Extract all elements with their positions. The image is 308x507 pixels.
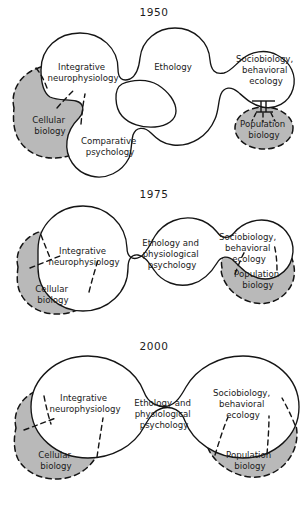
year-label-2000: 2000	[0, 340, 308, 352]
diagram-2000: Integrative neurophysiology Ethology and…	[0, 332, 308, 507]
label-cellular-biology-1950: Cellular biology	[32, 115, 67, 136]
label-cellular-biology-1975: Cellular biology	[35, 284, 70, 305]
year-label-1975: 1975	[0, 188, 308, 200]
panel-2000: 2000 Integrative neurophysiology Etho	[0, 332, 308, 507]
label-cellular-biology-2000: Cellular biology	[38, 450, 73, 471]
panel-1950: 1950 Integrative	[0, 0, 308, 182]
label-ethology-1950: Ethology	[154, 62, 192, 72]
label-integrative-neurophysiology-1950: Integrative neurophysiology	[47, 62, 118, 83]
year-label-1950: 1950	[0, 6, 308, 18]
label-ethology-physiological-psychology-2000: Ethology and physiological psychology	[134, 398, 193, 430]
label-comparative-psychology-1950: Comparative psychology	[81, 136, 139, 157]
diagram-1950: Integrative neurophysiology Ethology Com…	[0, 0, 308, 182]
diagram-1975: Integrative neurophysiology Ethology and…	[0, 182, 308, 332]
label-ethology-physiological-psychology-1975: Ethology and physiological psychology	[142, 238, 201, 270]
panel-1975: 1975 Integrative neurophysiology Etholog…	[0, 182, 308, 332]
evolution-of-behavioral-biology-figure: 1950 Integrative	[0, 0, 308, 507]
label-integrative-neurophysiology-1975: Integrative neurophysiology	[48, 246, 119, 267]
label-integrative-neurophysiology-2000: Integrative neurophysiology	[49, 393, 120, 414]
